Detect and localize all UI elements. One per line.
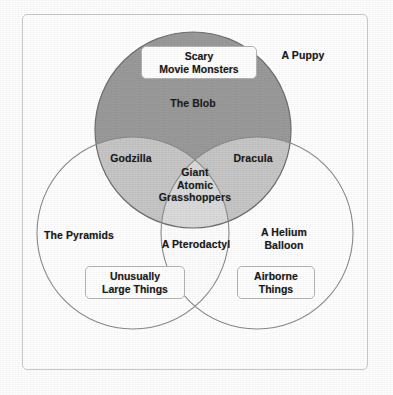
item-giant-atomic-grasshoppers: Giant Atomic Grasshoppers (155, 166, 235, 204)
item-a-puppy: A Puppy (268, 49, 338, 62)
item-godzilla: Godzilla (100, 152, 162, 165)
item-a-helium-balloon: A Helium Balloon (249, 226, 319, 251)
item-the-pyramids: The Pyramids (31, 229, 127, 242)
diagram-canvas: Scary Movie Monsters Unusually Large Thi… (0, 0, 393, 395)
item-a-pterodactyl: A Pterodactyl (151, 238, 241, 251)
item-dracula: Dracula (222, 152, 284, 165)
item-the-blob: The Blob (153, 97, 233, 110)
set-label-scary-movie-monsters: Scary Movie Monsters (141, 46, 257, 79)
set-label-unusually-large-things: Unusually Large Things (85, 266, 185, 299)
set-label-airborne-things: Airborne Things (237, 266, 315, 299)
